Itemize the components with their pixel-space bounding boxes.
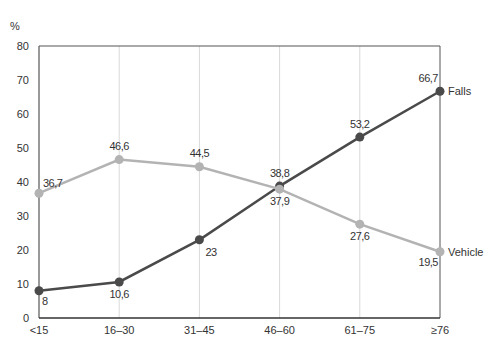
x-tick-label: 46–60	[264, 324, 295, 336]
vertical-gridlines	[119, 46, 360, 318]
y-tick-label: 20	[17, 244, 29, 256]
x-axis-ticks: <1516–3031–4546–6061–75≥76	[30, 324, 449, 336]
data-point	[195, 162, 204, 171]
series-vehicle	[35, 155, 445, 256]
y-tick-label: 40	[17, 176, 29, 188]
data-label: 38,8	[270, 167, 290, 179]
data-label: 37,9	[270, 195, 290, 207]
plot-frame	[39, 46, 440, 318]
data-point	[115, 277, 124, 286]
x-tick-label: 16–30	[104, 324, 135, 336]
x-tick-label: 31–45	[184, 324, 215, 336]
data-label: 44,5	[190, 147, 210, 159]
data-point	[355, 220, 364, 229]
data-label: 27,6	[350, 230, 370, 242]
y-tick-label: 10	[17, 278, 29, 290]
y-axis-ticks: 01020304050607080	[17, 40, 29, 324]
data-point	[436, 87, 445, 96]
series-line	[39, 91, 440, 291]
data-label: 19,5	[419, 256, 439, 268]
y-tick-label: 80	[17, 40, 29, 52]
x-tick-label: <15	[30, 324, 49, 336]
x-tick-label: ≥76	[431, 324, 449, 336]
x-tick-label: 61–75	[345, 324, 376, 336]
series-falls	[35, 87, 445, 296]
y-tick-label: 70	[17, 74, 29, 86]
data-point	[275, 185, 284, 194]
data-label: 66,7	[419, 72, 439, 84]
data-point	[115, 155, 124, 164]
series-name-label: Vehicle	[448, 246, 483, 258]
y-axis-label: %	[10, 20, 20, 32]
data-label: 53,2	[350, 118, 370, 130]
series-lines	[35, 87, 445, 296]
data-point	[195, 235, 204, 244]
y-tick-label: 30	[17, 210, 29, 222]
data-label: 46,6	[109, 140, 129, 152]
y-tick-label: 60	[17, 108, 29, 120]
data-point	[355, 133, 364, 142]
series-line	[39, 160, 440, 252]
line-chart: 01020304050607080 <1516–3031–4546–6061–7…	[0, 0, 497, 355]
series-name-label: Falls	[448, 85, 472, 97]
y-tick-label: 0	[23, 312, 29, 324]
data-label: 8	[42, 295, 48, 307]
data-labels: 810,62338,853,266,7Falls36,746,644,537,9…	[42, 72, 483, 307]
data-label: 23	[205, 246, 217, 258]
data-label: 36,7	[43, 177, 63, 189]
y-tick-label: 50	[17, 142, 29, 154]
data-label: 10,6	[109, 288, 129, 300]
data-point	[35, 189, 44, 198]
